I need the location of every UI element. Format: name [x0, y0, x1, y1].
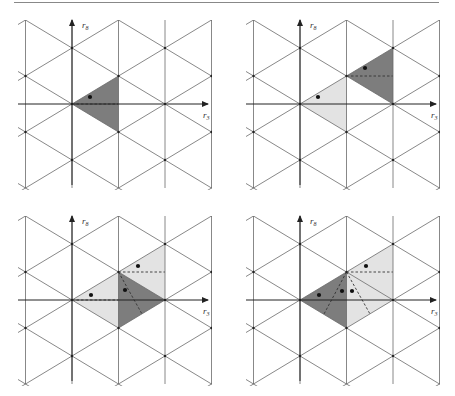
- lattice-vertex: [210, 131, 212, 133]
- lattice-vertex: [117, 131, 119, 133]
- r8-axis-label: r8: [310, 216, 317, 227]
- lattice-vertex: [24, 327, 26, 329]
- r3-axis-label: r3: [203, 110, 210, 121]
- lattice-vertex: [117, 271, 119, 273]
- point-marker: [350, 289, 354, 293]
- lattice-vertex: [345, 271, 347, 273]
- lattice-vertex: [438, 75, 440, 77]
- lattice-vertex: [392, 47, 394, 49]
- lattice-vertex: [392, 159, 394, 161]
- r3-axis-label: r3: [431, 110, 438, 121]
- lattice-diagram-1: r8r3: [0, 0, 228, 198]
- r8-axis-label: r8: [82, 20, 89, 31]
- lattice-vertex: [210, 271, 212, 273]
- r8-axis-label: r8: [310, 20, 317, 31]
- lattice-vertex: [164, 355, 166, 357]
- panel-4: r8r3: [228, 196, 455, 394]
- lattice-vertex: [210, 327, 212, 329]
- lattice-vertex: [164, 47, 166, 49]
- lattice-vertex: [210, 75, 212, 77]
- r8-axis-label: r8: [82, 216, 89, 227]
- lattice-vertex: [24, 271, 26, 273]
- point-marker: [88, 95, 92, 99]
- lattice-diagram-4: r8r3: [228, 196, 455, 394]
- lattice-vertex: [24, 131, 26, 133]
- lattice-vertex: [252, 75, 254, 77]
- point-marker: [89, 293, 93, 297]
- lattice-vertex: [345, 327, 347, 329]
- lattice-vertex: [345, 75, 347, 77]
- lattice-diagram-3: r8r3: [0, 196, 228, 394]
- r3-axis-label: r3: [203, 306, 210, 317]
- point-marker: [340, 289, 344, 293]
- lattice-vertex: [252, 327, 254, 329]
- lattice-vertex: [438, 271, 440, 273]
- lattice-vertex: [117, 75, 119, 77]
- point-marker: [136, 264, 140, 268]
- lattice-vertex: [164, 243, 166, 245]
- panel-1: r8r3: [0, 0, 228, 198]
- panel-2: r8r3: [228, 0, 455, 198]
- lattice-diagram-2: r8r3: [228, 0, 455, 198]
- point-marker: [317, 293, 321, 297]
- lattice-vertex: [345, 131, 347, 133]
- lattice-vertex: [252, 271, 254, 273]
- lattice-vertex: [392, 355, 394, 357]
- lattice-vertex: [24, 75, 26, 77]
- point-marker: [364, 264, 368, 268]
- lattice-vertex: [252, 131, 254, 133]
- lattice-vertex: [117, 327, 119, 329]
- panel-3: r8r3: [0, 196, 228, 394]
- r3-axis-label: r3: [431, 306, 438, 317]
- lattice-vertex: [438, 327, 440, 329]
- lattice-vertex: [438, 131, 440, 133]
- point-marker: [123, 288, 127, 292]
- lattice-vertex: [164, 159, 166, 161]
- lattice-vertex: [392, 243, 394, 245]
- point-marker: [363, 66, 367, 70]
- point-marker: [316, 95, 320, 99]
